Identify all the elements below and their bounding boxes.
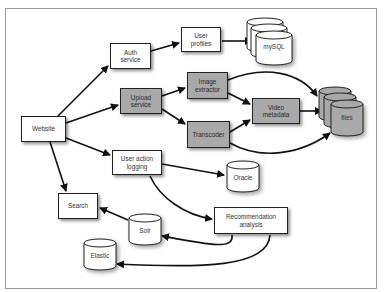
node-auth-service-label: Auth service [120,49,140,64]
edge-logging-oracle [162,164,224,175]
node-user-profiles-label: User profiles [191,32,212,47]
database-stack-icon [318,86,366,136]
node-image-extractor: Image extractor [187,72,228,99]
node-auth-service: Auth service [110,43,151,69]
db-files: files [318,86,366,136]
node-video-metadata-label: Video metadata [263,104,290,119]
node-recommendation-analysis-label: Recommendation analysis [226,213,276,228]
db-oracle: Oracle [226,160,262,194]
db-mysql: mySQL [246,17,294,65]
edge-website-logging [66,138,110,155]
edge-transcoder-files [230,133,330,153]
node-search-label: Search [68,202,88,209]
db-solr: Solr [128,213,164,247]
edge-solr-search [100,208,128,220]
node-website: Website [21,116,66,142]
edge-transcoder-video [230,120,250,132]
edge-image-files [228,72,317,96]
node-upload-service-label: Upload service [131,94,151,109]
edge-image-video [228,93,250,104]
database-stack-icon [246,17,294,65]
db-oracle-label: Oracle [226,174,260,181]
node-user-action-logging-label: User action logging [121,155,153,170]
node-transcoder: Transcoder [187,121,230,148]
db-elastic: Elastic [83,238,119,272]
node-search: Search [58,193,98,219]
db-solr-label: Solr [128,227,162,234]
edge-website-search [50,142,66,191]
edge-website-auth [58,66,108,116]
node-transcoder-label: Transcoder [192,131,224,138]
edge-website-upload [66,105,118,123]
db-elastic-label: Elastic [83,252,117,259]
edge-upload-transcoder [162,109,185,124]
node-video-metadata: Video metadata [252,98,300,124]
node-image-extractor-label: Image extractor [195,78,220,93]
db-mysql-label: mySQL [256,43,292,50]
node-website-label: Website [32,125,55,132]
edge-recommendation-solr [162,235,232,245]
node-user-action-logging: User action logging [112,150,162,175]
edge-upload-image [162,88,185,96]
node-user-profiles: User profiles [181,27,221,52]
db-files-label: files [331,114,363,121]
node-upload-service: Upload service [120,88,162,114]
edge-auth-profiles [151,43,179,51]
node-recommendation-analysis: Recommendation analysis [214,207,288,234]
